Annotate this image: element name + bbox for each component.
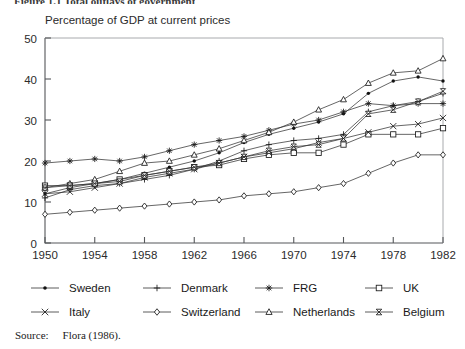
data-point-triangle bbox=[341, 96, 347, 101]
plus-marker-icon bbox=[142, 281, 172, 295]
legend-label: Italy bbox=[69, 306, 90, 318]
legend-label: Netherlands bbox=[293, 306, 355, 318]
data-point-asterisk bbox=[191, 142, 197, 148]
data-point-square bbox=[341, 142, 346, 147]
x-tick-label: 1966 bbox=[231, 249, 257, 261]
data-point-diamond bbox=[341, 180, 346, 186]
x-tick-label: 1978 bbox=[380, 249, 406, 261]
data-point-asterisk bbox=[440, 101, 446, 107]
data-point-triangle bbox=[440, 55, 446, 60]
data-point-diamond bbox=[154, 309, 159, 316]
data-point-bowtie bbox=[440, 89, 445, 94]
bowtie-marker-icon bbox=[364, 305, 394, 319]
data-point-diamond bbox=[67, 209, 72, 215]
legend-item-switzerland[interactable]: Switzerland bbox=[142, 305, 254, 319]
data-point-square bbox=[440, 126, 445, 131]
legend-label: Belgium bbox=[403, 306, 445, 318]
data-point-diamond bbox=[291, 189, 296, 195]
data-point-plus bbox=[154, 285, 161, 292]
data-point-triangle bbox=[266, 309, 272, 315]
legend-label: UK bbox=[403, 282, 419, 294]
data-point-diamond bbox=[117, 205, 122, 211]
data-point-dot bbox=[217, 151, 220, 154]
triangle-marker-icon bbox=[254, 305, 284, 319]
data-point-diamond bbox=[167, 201, 172, 207]
data-point-dot bbox=[416, 75, 419, 78]
legend-row: SwedenDenmarkFRGUK bbox=[30, 276, 442, 300]
data-point-asterisk bbox=[166, 148, 172, 154]
y-tick-label: 40 bbox=[24, 74, 37, 86]
data-point-square bbox=[391, 132, 396, 137]
data-point-diamond bbox=[242, 193, 247, 199]
y-tick-label: 30 bbox=[24, 115, 37, 127]
data-point-diamond bbox=[366, 170, 371, 176]
x-tick-label: 1982 bbox=[430, 249, 456, 261]
legend-label: Switzerland bbox=[181, 306, 240, 318]
legend-item-sweden[interactable]: Sweden bbox=[30, 281, 142, 295]
legend-row: ItalySwitzerlandNetherlandsBelgium bbox=[30, 300, 442, 324]
y-tick-label: 10 bbox=[24, 197, 37, 209]
y-tick-label: 0 bbox=[31, 238, 37, 250]
data-point-dot bbox=[367, 92, 370, 95]
x-tick-label: 1958 bbox=[132, 249, 158, 261]
legend-label: Sweden bbox=[69, 282, 111, 294]
data-point-triangle bbox=[291, 119, 297, 124]
data-point-asterisk bbox=[92, 156, 98, 162]
legend-label: Denmark bbox=[181, 282, 228, 294]
legend-item-frg[interactable]: FRG bbox=[254, 281, 364, 295]
x-tick-label: 1974 bbox=[331, 249, 357, 261]
diamond-marker-icon bbox=[142, 305, 172, 319]
data-point-dot bbox=[392, 79, 395, 82]
data-point-triangle bbox=[316, 107, 322, 112]
data-point-plus bbox=[266, 142, 272, 148]
y-tick-label: 50 bbox=[24, 33, 37, 45]
data-point-asterisk bbox=[340, 109, 346, 115]
data-point-square bbox=[316, 150, 321, 155]
data-point-dot bbox=[441, 79, 444, 82]
legend-item-belgium[interactable]: Belgium bbox=[364, 305, 442, 319]
data-point-asterisk bbox=[316, 117, 322, 123]
source-note: Source:Flora (1986). bbox=[15, 329, 121, 341]
data-point-plus bbox=[291, 137, 297, 143]
x-tick-label: 1970 bbox=[281, 249, 307, 261]
cross-marker-icon bbox=[30, 305, 60, 319]
square-marker-icon bbox=[364, 281, 394, 295]
data-point-asterisk bbox=[117, 158, 123, 164]
data-point-diamond bbox=[43, 211, 48, 217]
data-point-diamond bbox=[192, 199, 197, 205]
y-tick-label: 20 bbox=[24, 156, 37, 168]
data-point-diamond bbox=[266, 191, 271, 197]
data-point-diamond bbox=[142, 203, 147, 209]
data-point-triangle bbox=[365, 80, 371, 85]
source-text: Flora (1986). bbox=[63, 329, 121, 341]
legend-item-denmark[interactable]: Denmark bbox=[142, 281, 254, 295]
data-point-asterisk bbox=[365, 101, 371, 107]
data-point-asterisk bbox=[266, 285, 273, 292]
data-point-diamond bbox=[441, 152, 446, 158]
asterisk-marker-icon bbox=[254, 281, 284, 295]
data-point-triangle bbox=[415, 68, 421, 73]
data-point-dot bbox=[43, 286, 47, 290]
data-point-asterisk bbox=[42, 160, 48, 166]
x-tick-label: 1950 bbox=[32, 249, 58, 261]
legend-item-uk[interactable]: UK bbox=[364, 281, 442, 295]
data-point-diamond bbox=[316, 185, 321, 191]
legend-label: FRG bbox=[293, 282, 317, 294]
data-point-square bbox=[415, 132, 420, 137]
data-point-diamond bbox=[217, 197, 222, 203]
legend-item-netherlands[interactable]: Netherlands bbox=[254, 305, 364, 319]
data-point-asterisk bbox=[67, 158, 73, 164]
source-label: Source: bbox=[15, 329, 49, 341]
dot-marker-icon bbox=[30, 281, 60, 295]
chart-legend: SwedenDenmarkFRGUKItalySwitzerlandNether… bbox=[30, 276, 442, 324]
series-netherlands bbox=[42, 55, 446, 190]
data-point-plus bbox=[241, 148, 247, 154]
data-point-asterisk bbox=[216, 137, 222, 143]
line-chart: 0102030405019501954195819621966197019741… bbox=[0, 0, 465, 270]
data-point-diamond bbox=[416, 152, 421, 158]
x-tick-label: 1962 bbox=[181, 249, 207, 261]
data-point-diamond bbox=[92, 207, 97, 213]
legend-item-italy[interactable]: Italy bbox=[30, 305, 142, 319]
data-point-square bbox=[376, 285, 382, 291]
x-tick-label: 1954 bbox=[82, 249, 108, 261]
